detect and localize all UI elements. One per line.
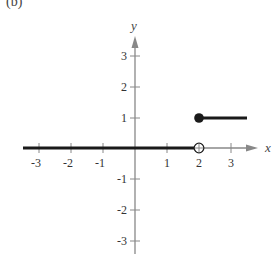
x-tick-label: 1 — [164, 156, 170, 170]
panel-label: (b) — [6, 0, 23, 10]
x-tick-label: -3 — [31, 156, 41, 170]
y-tick-label: 2 — [121, 80, 127, 94]
x-tick-labels: -3 -2 -1 1 2 3 — [31, 156, 234, 170]
y-tick-label: 1 — [121, 111, 127, 125]
x-tick-label: 2 — [196, 156, 202, 170]
y-tick-label: 3 — [121, 49, 127, 63]
step-function-graph: (b) x y -3 -2 -1 1 2 3 3 2 — [0, 0, 279, 264]
y-tick-label: -1 — [117, 172, 127, 186]
closed-endpoint-icon — [194, 113, 204, 123]
y-axis-label: y — [129, 18, 137, 33]
y-axis-arrow-icon — [132, 36, 139, 48]
x-tick-label: -1 — [95, 156, 105, 170]
x-axis-arrow-icon — [246, 145, 258, 152]
y-axis: y — [129, 18, 139, 254]
y-tick-label: -3 — [117, 234, 127, 248]
x-axis-label: x — [264, 140, 271, 155]
y-tick-label: -2 — [117, 203, 127, 217]
x-tick-label: 3 — [228, 156, 234, 170]
x-tick-label: -2 — [63, 156, 73, 170]
